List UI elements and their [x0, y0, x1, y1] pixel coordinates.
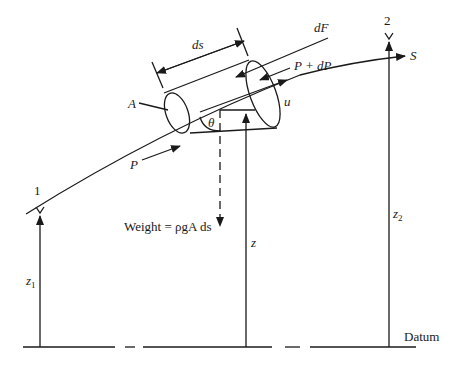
- point2-marker: [385, 33, 393, 39]
- z2-label: z2: [392, 206, 403, 223]
- s-label: S: [410, 48, 417, 63]
- theta-label: θ: [208, 115, 215, 130]
- point2-label: 2: [384, 13, 391, 28]
- df-label: dF: [314, 20, 330, 35]
- u-arrow: [200, 80, 287, 112]
- ds-extension-left: [152, 62, 163, 88]
- ds-label: ds: [192, 37, 204, 52]
- point1-label: 1: [34, 183, 41, 198]
- p-arrow: [142, 146, 180, 160]
- area-label: A: [127, 96, 136, 111]
- streamline: [26, 56, 405, 214]
- z-label: z: [250, 235, 256, 250]
- datum-label: Datum: [404, 329, 439, 344]
- area-leader: [139, 103, 168, 110]
- fluid-element-cylinder: [159, 57, 287, 137]
- point1-marker: [36, 207, 44, 213]
- u-label: u: [284, 94, 291, 109]
- p-label: P: [129, 157, 138, 172]
- z1-label: z1: [25, 273, 36, 290]
- streamline-diagram: S ds dF P + dP u A P θ Weight = ρgA ds z…: [0, 0, 457, 367]
- p-plus-dp-label: P + dP: [293, 58, 331, 73]
- weight-label: Weight = ρgA ds: [124, 219, 212, 234]
